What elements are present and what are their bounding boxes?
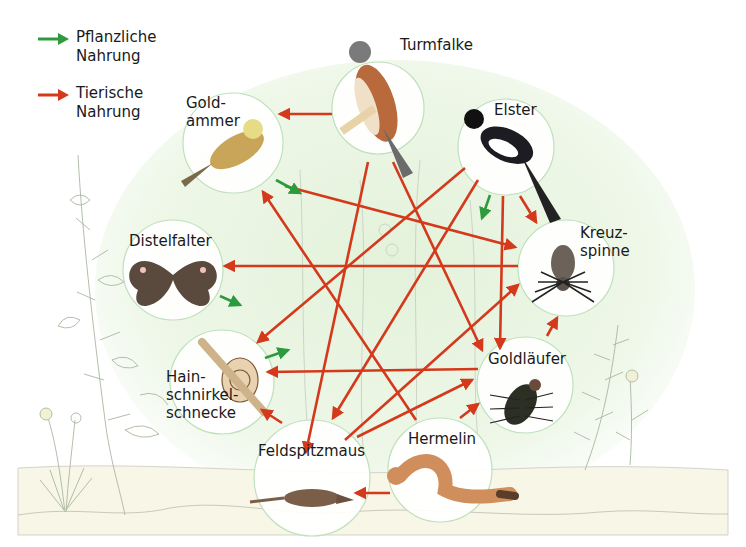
label-goldlaeufer: Goldläufer — [488, 350, 566, 368]
label-distelfalter: Distelfalter — [129, 232, 212, 250]
food-web-canvas — [0, 0, 746, 547]
ground — [18, 466, 728, 535]
label-kreuzspinne: Kreuz- spinne — [580, 224, 630, 260]
label-elster: Elster — [494, 101, 537, 119]
legend-plant-label: Pflanzliche Nahrung — [76, 28, 156, 66]
node-circle-feldspitzmaus — [254, 420, 370, 536]
label-feldspitzmaus: Feldspitzmaus — [258, 442, 365, 460]
label-goldammer: Gold- ammer — [186, 94, 240, 130]
food-web-diagram: Pflanzliche Nahrung Tierische Nahrung Tu… — [0, 0, 746, 547]
label-schnecke: Hain- schnirkel- schnecke — [166, 368, 238, 422]
legend-plant-arrow-icon — [36, 33, 70, 45]
label-turmfalke: Turmfalke — [400, 36, 473, 54]
legend-animal-arrow-icon — [36, 89, 70, 101]
label-hermelin: Hermelin — [408, 430, 476, 448]
legend-animal-label: Tierische Nahrung — [76, 84, 143, 122]
